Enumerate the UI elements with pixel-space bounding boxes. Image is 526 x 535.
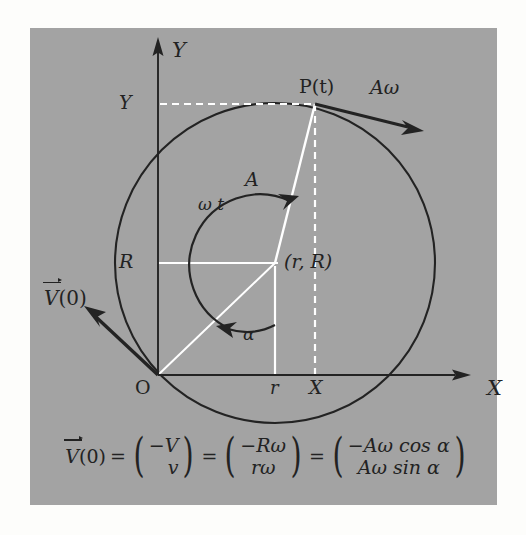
equals-sign-1: = (109, 445, 127, 467)
equation-lhs: V(0) (65, 445, 106, 467)
equation-lhs-arg: (0) (79, 445, 106, 467)
y-axis-label: Y (172, 40, 186, 61)
y-tick-label-Y: Y (119, 93, 132, 112)
velocity-vector-label: V(0) (44, 288, 87, 308)
y-tick-label-R: R (119, 252, 133, 271)
point-label-P-of-t: P(t) (299, 77, 334, 96)
equals-sign-2: = (200, 445, 218, 467)
origin-label: O (135, 378, 151, 397)
paren-left-2: ( (225, 438, 236, 474)
paren-right-2: ) (290, 438, 301, 474)
matrix-3-bottom: Aω sin α (348, 456, 450, 478)
phase-angle-label: α (243, 326, 254, 343)
tangential-speed-label: Aω (370, 78, 399, 97)
paren-left-3: ( (332, 438, 343, 474)
center-point-label: (r, R) (284, 252, 332, 271)
velocity-equation: V(0) = ( −V v ) = ( −Rω rω ) = ( −Aω cos… (52, 425, 482, 487)
x-tick-label-r: r (270, 379, 279, 397)
vector-matrix-1: ( −V v ) (130, 434, 198, 479)
velocity-vector-label-symbol: V (44, 288, 58, 308)
x-tick-label-X: X (309, 378, 323, 397)
paren-right-3: ) (454, 438, 465, 474)
matrix-3-top: −Aω cos α (348, 434, 450, 456)
matrix-3-entries: −Aω cos α Aω sin α (347, 434, 451, 479)
vector-matrix-3: ( −Aω cos α Aω sin α ) (329, 434, 469, 479)
equation-lhs-symbol: V (65, 445, 79, 467)
radius-label-A: A (245, 170, 259, 189)
matrix-2-bottom: rω (240, 456, 286, 478)
matrix-1-entries: −V v (148, 434, 180, 479)
figure-diagram: Y X O Y R r X P(t) (r, R) A ω t α Aω V(0… (0, 0, 526, 535)
vector-matrix-2: ( −Rω rω ) (221, 434, 305, 479)
matrix-1-bottom: v (149, 456, 179, 478)
equals-sign-3: = (308, 445, 326, 467)
matrix-2-entries: −Rω rω (239, 434, 287, 479)
velocity-vector-label-arg: (0) (58, 286, 86, 310)
paren-right-1: ) (183, 438, 194, 474)
matrix-1-top: −V (149, 434, 179, 456)
rotation-angle-label: ω t (198, 196, 224, 213)
matrix-2-top: −Rω (240, 434, 286, 456)
paren-left-1: ( (133, 438, 144, 474)
x-axis-label: X (487, 378, 502, 399)
